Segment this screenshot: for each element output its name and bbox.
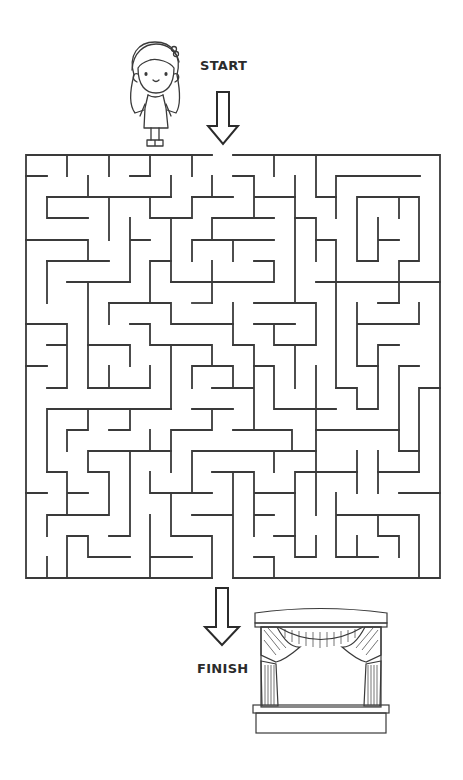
finish-arrow-icon [205, 588, 239, 645]
maze-puzzle-page: START [0, 0, 463, 780]
theater-stage-icon [253, 609, 389, 734]
maze-grid [0, 0, 463, 600]
finish-label: FINISH [197, 661, 248, 676]
finish-area [0, 580, 463, 780]
